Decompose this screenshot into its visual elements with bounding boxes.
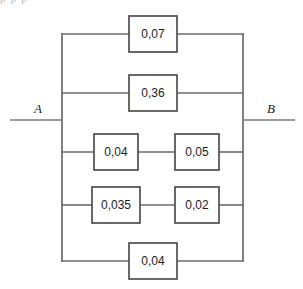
terminal-label-b: B bbox=[267, 101, 275, 116]
component-label-4b: 0,02 bbox=[185, 198, 209, 212]
component-label-3b: 0,05 bbox=[185, 145, 209, 159]
network-diagram-svg: 0,07 0,36 0,04 0,05 0,035 0,02 bbox=[0, 0, 303, 289]
diagram-figure: р р р 0,07 0,36 0,04 0,05 bbox=[0, 0, 303, 289]
component-label-5: 0,04 bbox=[141, 254, 165, 268]
branch-2: 0,36 bbox=[62, 75, 243, 111]
component-label-4a: 0,035 bbox=[101, 198, 131, 212]
branch-1: 0,07 bbox=[62, 16, 243, 52]
component-label-1: 0,07 bbox=[141, 27, 165, 41]
branch-3: 0,04 0,05 bbox=[62, 134, 243, 170]
component-label-3a: 0,04 bbox=[104, 145, 128, 159]
terminal-label-a: A bbox=[33, 101, 42, 116]
branch-5: 0,04 bbox=[62, 243, 243, 279]
component-label-2: 0,36 bbox=[141, 86, 165, 100]
branch-4: 0,035 0,02 bbox=[62, 187, 243, 223]
